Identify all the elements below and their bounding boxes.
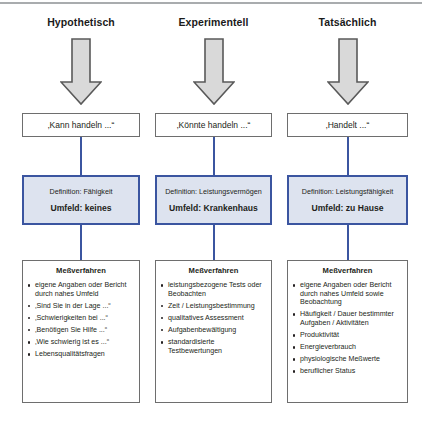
column-heading: Experimentell [155, 16, 272, 29]
capability-performance-diagram: Hypothetisch ‚Kann handeln ...“ Definiti… [0, 0, 422, 429]
definition-text: Definition: Leistungsvermögen [165, 187, 262, 196]
connector-line-lower [213, 225, 215, 260]
definition-box: Definition: Leistungsvermögen Umfeld: Kr… [155, 175, 272, 225]
statement-box: ‚Könnte handeln ...“ [155, 113, 272, 137]
definition-box: Definition: Leistungsfähigkeit Umfeld: z… [287, 175, 408, 225]
measures-title: Meßverfahren [159, 266, 268, 276]
list-item: beruflicher Status [291, 367, 404, 376]
connector-line-upper [80, 137, 82, 175]
list-item: leistungsbezogene Tests oder Beobachten [159, 281, 268, 298]
list-item: Zeit / Leistungsbestimmung [159, 302, 268, 311]
column-tatsaechlich: Tatsächlich ‚Handelt ...“ Definition: Le… [287, 0, 408, 429]
connector-line-upper [347, 137, 349, 175]
column-heading: Tatsächlich [287, 16, 408, 29]
definition-box: Definition: Fähigkeit Umfeld: keines [22, 175, 140, 225]
list-item: eigene Angaben oder Bericht durch nahes … [26, 281, 136, 298]
measures-title: Meßverfahren [291, 266, 404, 276]
definition-text: Definition: Leistungsfähigkeit [302, 187, 394, 196]
list-item: standardisierte Testbewertungen [159, 338, 268, 355]
measures-list: eigene Angaben oder Bericht durch nahes … [291, 281, 404, 376]
umfeld-text: Umfeld: keines [50, 203, 111, 213]
statement-box: ‚Kann handeln ...“ [22, 113, 140, 137]
statement-box: ‚Handelt ...“ [287, 113, 408, 137]
connector-line-upper [213, 137, 215, 175]
list-item: Lebensqualitätsfragen [26, 350, 136, 359]
measures-box: Meßverfahren eigene Angaben oder Bericht… [22, 260, 140, 403]
list-item: Aufgabenbewältigung [159, 326, 268, 335]
list-item: physiologische Meßwerte [291, 355, 404, 364]
down-block-arrow-icon [193, 38, 235, 106]
column-hypothetisch: Hypothetisch ‚Kann handeln ...“ Definiti… [22, 0, 140, 429]
list-item: ‚Schwierigkeiten bei ...“ [26, 314, 136, 323]
measures-title: Meßverfahren [26, 266, 136, 276]
down-block-arrow-icon [327, 38, 369, 106]
list-item: eigene Angaben oder Bericht durch nahes … [291, 281, 404, 307]
measures-box: Meßverfahren eigene Angaben oder Bericht… [287, 260, 408, 403]
definition-text: Definition: Fähigkeit [49, 187, 112, 196]
statement-text: ‚Handelt ...“ [326, 120, 369, 130]
umfeld-text: Umfeld: zu Hause [311, 203, 383, 213]
list-item: qualitatives Assessment [159, 314, 268, 323]
list-item: ‚Sind Sie in der Lage ...“ [26, 302, 136, 311]
column-heading: Hypothetisch [22, 16, 140, 29]
statement-text: ‚Kann handeln ...“ [48, 120, 115, 130]
measures-list: leistungsbezogene Tests oder Beobachten … [159, 281, 268, 355]
list-item: Energieverbrauch [291, 343, 404, 352]
measures-list: eigene Angaben oder Bericht durch nahes … [26, 281, 136, 359]
umfeld-text: Umfeld: Krankenhaus [169, 203, 258, 213]
column-experimentell: Experimentell ‚Könnte handeln ...“ Defin… [155, 0, 272, 429]
measures-box: Meßverfahren leistungsbezogene Tests ode… [155, 260, 272, 403]
connector-line-lower [80, 225, 82, 260]
statement-text: ‚Könnte handeln ...“ [177, 120, 251, 130]
list-item: Produktivität [291, 331, 404, 340]
list-item: ‚Wie schwierig ist es ...“ [26, 338, 136, 347]
connector-line-lower [347, 225, 349, 260]
list-item: Häufigkeit / Dauer bestimmter Aufgaben /… [291, 310, 404, 327]
down-block-arrow-icon [60, 38, 102, 106]
list-item: ‚Benötigen Sie Hilfe ...“ [26, 326, 136, 335]
